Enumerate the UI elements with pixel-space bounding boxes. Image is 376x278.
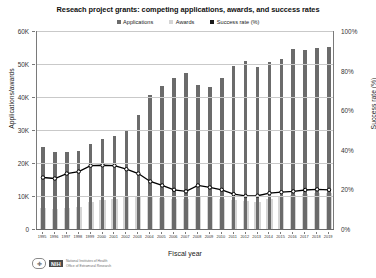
x-axis-tick-label: 2017 — [300, 234, 309, 239]
success-rate-marker — [160, 184, 163, 187]
x-axis-tick-label: 2011 — [228, 234, 236, 239]
success-rate-marker — [137, 172, 140, 175]
gridline — [37, 64, 333, 65]
y-axis-left-tick-label: 60K — [18, 28, 29, 35]
x-axis-tick-label: 2013 — [252, 234, 261, 239]
nih-logo-badge: NIH — [49, 260, 63, 267]
success-rate-marker — [280, 190, 283, 193]
chart-container: Reseach project grants: competing applic… — [0, 0, 376, 278]
x-axis-tick-label: 1998 — [74, 234, 83, 239]
plot-area — [36, 31, 334, 229]
nih-agency-text: National Institutes of Health Office of … — [66, 259, 111, 268]
y-axis-right-tick-label: 100% — [341, 28, 357, 35]
x-axis-tick-label: 2016 — [288, 234, 297, 239]
success-rate-marker — [41, 176, 44, 179]
y-axis-right-tick-label: 0% — [341, 226, 350, 233]
gridline — [37, 31, 333, 32]
success-rate-marker — [113, 164, 116, 167]
legend-swatch-awards — [169, 20, 173, 24]
success-rate-marker — [315, 188, 318, 191]
success-rate-marker — [149, 180, 152, 183]
gridline — [37, 130, 333, 131]
y-axis-right-tick-label: 40% — [341, 146, 354, 153]
x-axis-tick-label: 2008 — [193, 234, 202, 239]
y-axis-left-labels: 010K20K30K40K50K60K — [0, 24, 33, 236]
x-axis-labels: 1995199619971998199920002001200220032004… — [36, 232, 334, 248]
success-rate-marker — [172, 188, 175, 191]
legend-label-applications: Applications — [123, 19, 153, 25]
legend-item-applications: Applications — [117, 19, 154, 25]
x-axis-tick-label: 2010 — [217, 234, 226, 239]
y-axis-left-tick-label: 10K — [18, 193, 29, 200]
x-axis-tick-label: 2019 — [324, 234, 333, 239]
success-rate-marker — [208, 186, 211, 189]
y-axis-right-title: Success rate (%) — [370, 49, 376, 159]
chart-title: Reseach project grants: competing applic… — [0, 5, 376, 14]
x-axis-tick-label: 2007 — [181, 234, 190, 239]
x-axis-tick-label: 2004 — [145, 234, 154, 239]
nih-seal-icon: ✚ — [32, 258, 46, 269]
legend-swatch-applications — [117, 20, 121, 24]
nih-footer: ✚ NIH National Institutes of Health Offi… — [32, 258, 111, 269]
success-rate-marker — [220, 188, 223, 191]
y-axis-left-title: Applications/awards — [8, 44, 15, 154]
x-axis-tick-label: 2015 — [276, 234, 285, 239]
success-rate-marker — [125, 168, 128, 171]
legend-label-success-rate: Success rate (%) — [217, 19, 260, 25]
x-axis-tick-label: 2018 — [312, 234, 321, 239]
x-axis-line — [36, 229, 334, 230]
x-axis-tick-label: 1999 — [85, 234, 94, 239]
y-axis-left-tick-label: 0 — [25, 226, 29, 233]
x-axis-tick-label: 2002 — [121, 234, 130, 239]
legend-label-awards: Awards — [176, 19, 195, 25]
legend-swatch-success-rate — [210, 20, 214, 24]
y-axis-left-tick-label: 30K — [18, 127, 29, 134]
x-axis-tick-label: 2009 — [205, 234, 214, 239]
y-axis-left-tick-label: 50K — [18, 61, 29, 68]
success-rate-marker — [196, 184, 199, 187]
y-axis-left-tick — [32, 163, 35, 164]
y-axis-left-tick-label: 40K — [18, 94, 29, 101]
nih-agency-line2: Office of Extramural Research — [66, 264, 111, 268]
y-axis-left-tick — [32, 31, 35, 32]
gridline — [37, 97, 333, 98]
success-rate-marker — [65, 172, 68, 175]
nih-agency-line1: National Institutes of Health — [66, 259, 111, 263]
y-axis-right-tick-label: 80% — [341, 67, 354, 74]
x-axis-tick-label: 1995 — [38, 234, 47, 239]
success-rate-marker — [304, 188, 307, 191]
x-axis-tick-label: 2012 — [240, 234, 249, 239]
success-rate-marker — [53, 177, 56, 180]
x-axis-tick-label: 2005 — [157, 234, 166, 239]
gridline — [37, 163, 333, 164]
y-axis-left-tick-label: 20K — [18, 160, 29, 167]
success-rate-marker — [77, 170, 80, 173]
y-axis-left-tick — [32, 97, 35, 98]
y-axis-left-tick — [32, 229, 35, 230]
x-axis-tick-label: 2000 — [97, 234, 106, 239]
gridline — [37, 196, 333, 197]
success-rate-marker — [327, 188, 330, 191]
y-axis-left-tick — [32, 64, 35, 65]
success-rate-marker — [101, 164, 104, 167]
x-axis-tick-label: 2006 — [169, 234, 178, 239]
success-rate-marker — [184, 190, 187, 193]
success-rate-marker — [292, 190, 295, 193]
x-axis-tick-label: 2001 — [109, 234, 118, 239]
legend-item-success-rate: Success rate (%) — [210, 19, 259, 25]
success-rate-marker — [89, 164, 92, 167]
y-axis-right-tick-label: 20% — [341, 186, 354, 193]
x-axis-tick-label: 2014 — [264, 234, 273, 239]
x-axis-title: Fiscal year — [36, 250, 334, 257]
x-axis-tick-label: 1996 — [50, 234, 59, 239]
success-rate-marker — [268, 191, 271, 194]
x-axis-tick-label: 2003 — [133, 234, 142, 239]
chart-legend: Applications Awards Success rate (%) — [0, 19, 376, 25]
y-axis-right-tick-label: 60% — [341, 107, 354, 114]
legend-item-awards: Awards — [169, 19, 194, 25]
x-axis-tick-label: 1997 — [62, 234, 71, 239]
y-axis-left-tick — [32, 130, 35, 131]
y-axis-left-tick — [32, 196, 35, 197]
